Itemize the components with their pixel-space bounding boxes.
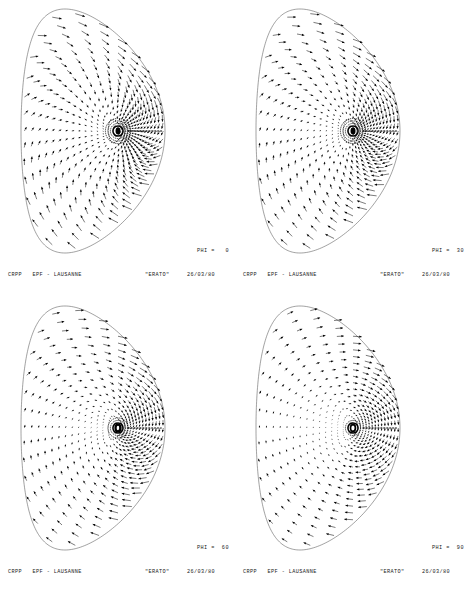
organization-label: CRPP EPF - LAUSANNE: [8, 569, 82, 575]
code-name-label: "ERATO": [145, 272, 170, 278]
vector-field-plot: [0, 297, 235, 559]
organization-label: CRPP EPF - LAUSANNE: [243, 569, 317, 575]
organization-label: CRPP EPF - LAUSANNE: [243, 272, 317, 278]
date-label: 26/03/80: [422, 569, 450, 575]
code-name-label: "ERATO": [380, 569, 405, 575]
date-label: 26/03/80: [187, 272, 215, 278]
vector-field-plot: [235, 0, 470, 262]
phi-label: PHI = 0: [197, 248, 229, 254]
phi-label: PHI = 90: [432, 545, 464, 551]
panel-footer: CRPP EPF - LAUSANNE"ERATO"26/03/80: [235, 272, 470, 286]
plot-panel: PHI = 90CRPP EPF - LAUSANNE"ERATO"26/03/…: [235, 297, 470, 594]
date-label: 26/03/80: [187, 569, 215, 575]
phi-label: PHI = 30: [432, 248, 464, 254]
plasma-cross-section-svg: [0, 0, 235, 262]
date-label: 26/03/80: [422, 272, 450, 278]
vector-field-plot: [235, 297, 470, 559]
vector-field-plot: [0, 0, 235, 262]
plot-panel: PHI = 30CRPP EPF - LAUSANNE"ERATO"26/03/…: [235, 0, 470, 297]
panel-footer: CRPP EPF - LAUSANNE"ERATO"26/03/80: [0, 272, 235, 286]
plasma-cross-section-svg: [235, 0, 470, 262]
plasma-cross-section-svg: [0, 297, 235, 559]
code-name-label: "ERATO": [145, 569, 170, 575]
code-name-label: "ERATO": [380, 272, 405, 278]
plot-panel: PHI = 0CRPP EPF - LAUSANNE"ERATO"26/03/8…: [0, 0, 235, 297]
plasma-cross-section-svg: [235, 297, 470, 559]
panel-footer: CRPP EPF - LAUSANNE"ERATO"26/03/80: [235, 569, 470, 583]
phi-label: PHI = 60: [197, 545, 229, 551]
plot-panel: PHI = 60CRPP EPF - LAUSANNE"ERATO"26/03/…: [0, 297, 235, 594]
organization-label: CRPP EPF - LAUSANNE: [8, 272, 82, 278]
figure-sheet: PHI = 0CRPP EPF - LAUSANNE"ERATO"26/03/8…: [0, 0, 470, 594]
panel-footer: CRPP EPF - LAUSANNE"ERATO"26/03/80: [0, 569, 235, 583]
